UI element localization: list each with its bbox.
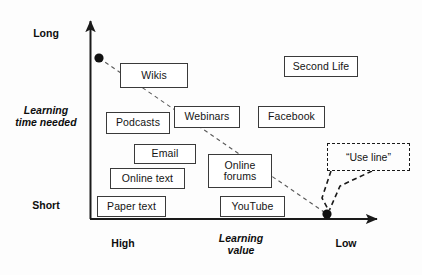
diagram-canvas: Long Learning time needed Short High Lea… <box>0 0 422 275</box>
callout-leader-lower <box>330 171 373 210</box>
callout-leader-upper <box>322 171 331 210</box>
axis-tick-high: High <box>95 237 151 249</box>
x-axis-title: Learning value <box>205 232 277 256</box>
node-wikis[interactable]: Wikis <box>120 63 188 88</box>
node-email[interactable]: Email <box>134 144 196 164</box>
callout-use-line[interactable]: “Use line” <box>327 143 410 171</box>
node-paper-text[interactable]: Paper text <box>97 196 166 217</box>
node-webinars[interactable]: Webinars <box>174 106 240 128</box>
y-axis-title: Learning time needed <box>5 104 87 128</box>
node-online-text[interactable]: Online text <box>110 168 185 189</box>
trend-end-dot <box>322 209 331 218</box>
node-podcasts[interactable]: Podcasts <box>106 112 170 134</box>
axis-tick-low: Low <box>320 237 372 249</box>
node-youtube[interactable]: YouTube <box>220 196 285 217</box>
axis-tick-long: Long <box>18 27 74 39</box>
node-facebook[interactable]: Facebook <box>258 106 325 128</box>
node-online-forums[interactable]: Online forums <box>208 154 272 188</box>
node-second-life[interactable]: Second Life <box>284 56 358 77</box>
axis-tick-short: Short <box>18 199 74 211</box>
trend-start-dot <box>94 53 103 62</box>
